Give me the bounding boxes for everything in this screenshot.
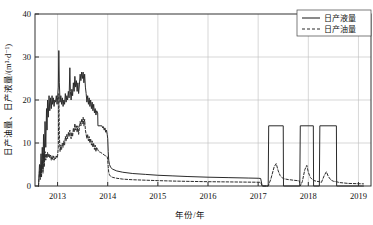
chart-container: 010203040 2013201420152016201720182019 日… [0,0,373,225]
legend-label-liquid: 日产液量 [324,13,356,23]
y-tick-label: 40 [23,9,32,19]
x-tick-label: 2017 [250,191,267,201]
chart-legend: 日产液量 日产油量 [297,10,371,36]
x-tick-label: 2019 [350,191,367,201]
x-tick-label: 2015 [149,191,166,201]
legend-label-oil: 日产油量 [324,24,356,34]
x-tick-label: 2018 [300,191,317,201]
y-tick-label: 0 [27,181,31,191]
y-tick-label: 30 [23,52,32,62]
y-tick-label: 10 [23,138,32,148]
production-line-chart: 010203040 2013201420152016201720182019 日… [0,0,373,225]
x-tick-label: 2013 [49,191,66,201]
x-tick-label: 2014 [99,191,117,201]
y-tick-label: 20 [23,95,32,105]
x-axis-title: 年份/年 [175,210,204,220]
y-axis-title: 日产油量、日产液量/(m³·d⁻¹) [3,44,13,156]
x-tick-label: 2016 [200,191,217,201]
